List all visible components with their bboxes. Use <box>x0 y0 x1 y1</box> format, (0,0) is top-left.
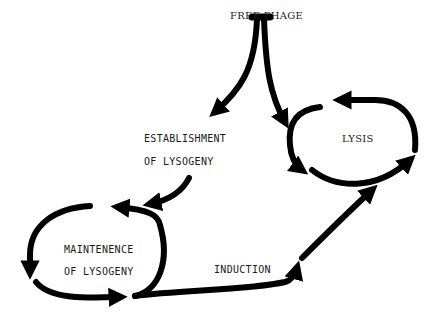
diagram-canvas: FREE PHAGE ESTABLISHMENT OF LYSOGENY LYS… <box>0 0 439 323</box>
arrow-establishment-to-maintenance <box>150 178 189 204</box>
free-phage-label: FREE PHAGE <box>230 10 303 21</box>
lysis-cycle-bottom <box>312 160 410 184</box>
establishment-label-line1: ESTABLISHMENT <box>144 133 226 144</box>
arrow-to-lysis <box>264 19 285 122</box>
establishment-label-line2: OF LYSOGENY <box>144 156 214 167</box>
arrow-to-establishment <box>215 19 257 112</box>
maintenance-cycle-left <box>30 206 90 272</box>
induction-label: INDUCTION <box>214 264 271 275</box>
lysis-cycle-left <box>290 107 320 170</box>
maintenance-label-line2: OF LYSOGENY <box>64 266 134 277</box>
arrow-induction-to-lysis <box>302 190 372 258</box>
lysis-label: LYSIS <box>342 133 374 144</box>
maintenance-cycle-bottom <box>36 282 120 298</box>
maintenance-label-line1: MAINTENENCE <box>64 244 134 255</box>
